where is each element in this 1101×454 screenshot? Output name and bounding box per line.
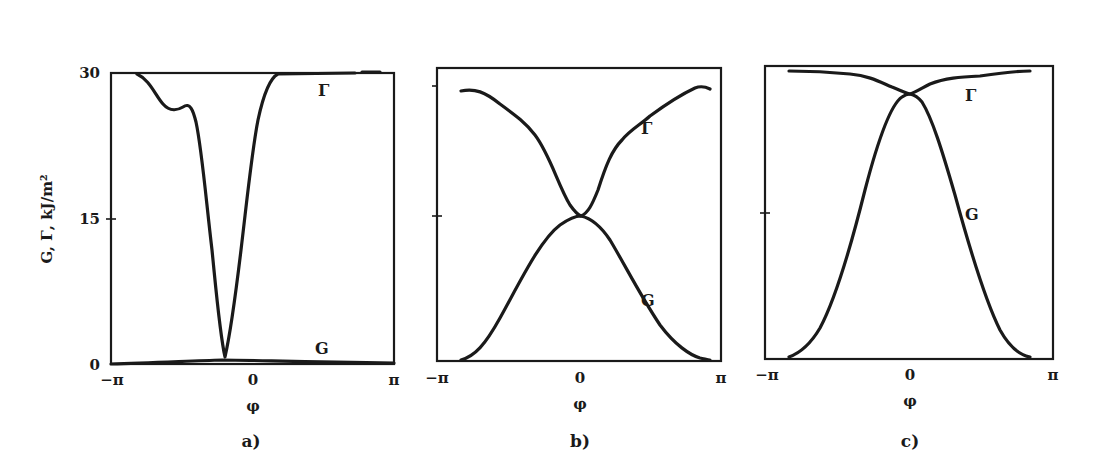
panel-c-xtick-label-pi: π [1048,366,1059,384]
panel-a-gamma-curve [137,72,380,357]
panel-b-gamma-curve [461,87,710,216]
panel-b-xtick-label-neg-pi: −π [425,369,449,387]
panel-a-caption: a) [241,431,260,451]
panel-c-frame [765,66,1053,359]
panel-c-gamma-label: Γ [965,86,977,105]
panel-b-g-curve [461,216,710,360]
panel-a-ytick-label-15: 15 [79,210,100,228]
panel-a-ytick-label-0: 0 [90,356,100,374]
figure: G, Γ, kJ/m² 30 15 0 −π 0 π φ a) Γ G −π 0… [0,0,1101,454]
panel-a-g-label: G [315,339,329,358]
panel-a-gamma-label: Γ [318,81,330,100]
panel-c-xtick-label-0: 0 [905,366,915,384]
panel-c-g-curve [789,94,1030,357]
y-axis-label: G, Γ, kJ/m² [38,174,56,263]
panel-b: −π 0 π φ b) Γ G [425,68,726,451]
panel-b-g-label: G [641,291,655,310]
panel-c-xtick-label-neg-pi: −π [755,366,779,384]
panel-a-ytick-label-30: 30 [79,64,100,82]
panel-c-gamma-curve [789,71,1030,94]
panel-a-xtick-label-neg-pi: −π [100,371,124,389]
panel-b-xtick-label-0: 0 [575,369,585,387]
panel-a: 30 15 0 −π 0 π φ a) Γ G [79,64,399,451]
panel-c-caption: c) [901,431,919,451]
panel-b-gamma-label: Γ [641,119,653,138]
panel-a-xtick-label-0: 0 [248,371,258,389]
panel-c-g-label: G [965,205,979,224]
panel-b-caption: b) [570,431,590,451]
panel-b-x-axis-label: φ [573,395,587,413]
panel-c-x-axis-label: φ [903,392,917,410]
panel-a-frame [111,73,394,364]
panel-b-xtick-label-pi: π [716,369,727,387]
panel-a-x-axis-label: φ [246,397,260,415]
panel-a-xtick-label-pi: π [389,371,400,389]
panel-c: −π 0 π φ c) Γ G [755,66,1058,451]
